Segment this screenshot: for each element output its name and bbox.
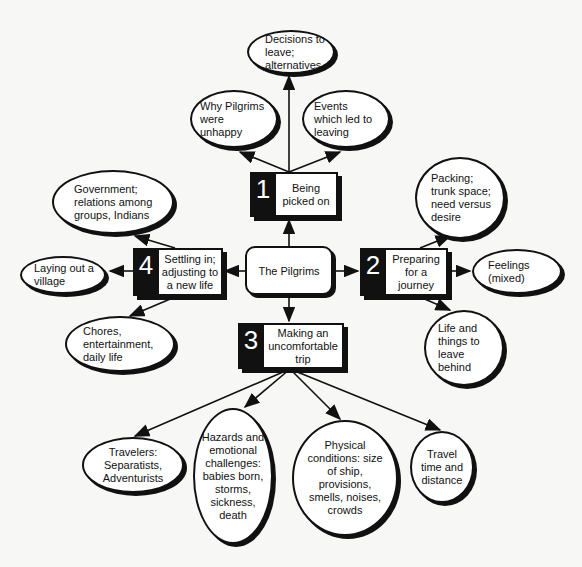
topic-label: Laying out a village bbox=[34, 262, 94, 288]
step-label: Preparing for a journey bbox=[386, 248, 448, 296]
topic-label: Hazards and emotional challenges: babies… bbox=[202, 431, 264, 522]
topic-label: Why Pilgrims were unhappy bbox=[200, 100, 264, 139]
topic-label: Packing; trunk space; need versus desire bbox=[431, 172, 491, 224]
topic-chores-daily-life: Chores, entertainment, daily life bbox=[65, 316, 175, 372]
topic-label: Feelings (mixed) bbox=[488, 259, 530, 285]
step-label: Being picked on bbox=[276, 172, 338, 217]
step-label: Settling in; adjusting to a new life bbox=[159, 248, 223, 296]
topic-laying-out-village: Laying out a village bbox=[20, 256, 106, 294]
topic-label: Life and things to leave behind bbox=[438, 322, 480, 374]
central-topic-the-pilgrims: The Pilgrims bbox=[245, 246, 333, 295]
topic-label: Physical conditions: size of ship, provi… bbox=[307, 439, 382, 517]
topic-label: Chores, entertainment, daily life bbox=[83, 325, 153, 364]
topic-packing-trunk-space: Packing; trunk space; need versus desire bbox=[415, 157, 505, 239]
step-2-preparing-journey: 2 Preparing for a journey bbox=[360, 248, 448, 296]
topic-events-led-to-leaving: Events which led to leaving bbox=[302, 90, 390, 148]
topic-hazards-challenges: Hazards and emotional challenges: babies… bbox=[193, 408, 273, 544]
central-topic-label: The Pilgrims bbox=[258, 265, 319, 277]
topic-label: Decisions to leave; alternatives bbox=[265, 33, 325, 72]
topic-government-relations: Government; relations among groups, Indi… bbox=[52, 170, 174, 234]
step-label: Making an uncomfortable trip bbox=[264, 323, 344, 369]
step-number: 3 bbox=[238, 323, 264, 369]
topic-decisions-to-leave: Decisions to leave; alternatives bbox=[247, 30, 335, 74]
step-1-being-picked-on: 1 Being picked on bbox=[250, 172, 338, 217]
topic-physical-conditions: Physical conditions: size of ship, provi… bbox=[292, 420, 398, 536]
topic-travelers: Travelers: Separatists, Adventurists bbox=[82, 437, 184, 493]
topic-label: Travel time and distance bbox=[421, 448, 463, 487]
topic-label: Government; relations among groups, Indi… bbox=[74, 183, 152, 222]
topic-travel-time-distance: Travel time and distance bbox=[410, 431, 474, 503]
topic-label: Events which led to leaving bbox=[314, 100, 372, 139]
topic-label: Travelers: Separatists, Adventurists bbox=[103, 446, 164, 485]
step-4-settling-in: 4 Settling in; adjusting to a new life bbox=[133, 248, 223, 296]
step-number: 2 bbox=[360, 248, 386, 296]
step-3-uncomfortable-trip: 3 Making an uncomfortable trip bbox=[238, 323, 344, 369]
topic-why-pilgrims-unhappy: Why Pilgrims were unhappy bbox=[190, 90, 278, 148]
topic-feelings-mixed: Feelings (mixed) bbox=[472, 249, 562, 294]
topic-life-things-leave-behind: Life and things to leave behind bbox=[424, 310, 504, 386]
step-number: 1 bbox=[250, 172, 276, 217]
step-number: 4 bbox=[133, 248, 159, 296]
